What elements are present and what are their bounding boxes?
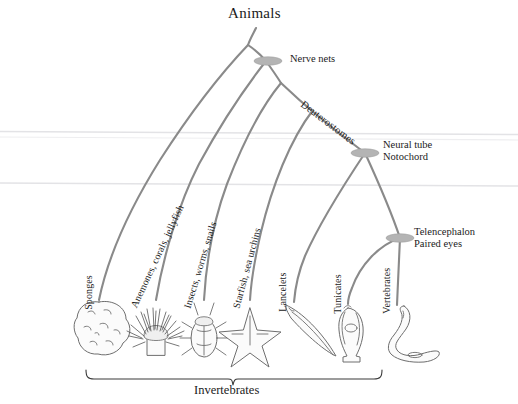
node-marker-nerve-nets	[254, 57, 282, 65]
background-rule-top-soft	[0, 137, 518, 140]
branch-sponges	[99, 45, 248, 300]
node-marker-neural-tube	[351, 149, 379, 157]
node-label-notochord: Notochord	[383, 151, 428, 163]
organism-sea-anemone	[127, 308, 184, 355]
organism-starfish	[219, 308, 281, 367]
node-marker-telencephalon	[386, 234, 414, 242]
organism-lancelet	[286, 305, 336, 356]
organism-tunicate	[339, 306, 363, 362]
taxon-label-sponges: Sponges	[83, 275, 95, 310]
organism-fish	[388, 306, 439, 362]
taxon-label-tunicates: Tunicates	[332, 274, 344, 313]
organism-beetle	[180, 303, 228, 357]
node-label-telencephalon: Telencephalon	[414, 226, 475, 238]
taxon-label-vertebrates: Vertebrates	[381, 268, 393, 314]
background-rule-top	[0, 132, 518, 135]
taxon-label-lancelets: Lancelets	[277, 273, 289, 312]
background-rules	[0, 132, 518, 187]
node-label-neural-tube: Neural tube	[383, 139, 432, 151]
bracket-label-invertebrates: Invertebrates	[194, 383, 259, 398]
branch-vertebrates	[397, 238, 400, 305]
background-rule-bottom	[0, 183, 518, 186]
figure-canvas: Animals Nerve nets Deuterostomes Neural …	[0, 0, 518, 404]
root-label-animals: Animals	[228, 5, 281, 23]
branch-olfactores-stem	[365, 153, 400, 238]
branch-root-stem	[248, 28, 256, 45]
node-label-paired-eyes: Paired eyes	[414, 238, 462, 250]
phylogenetic-tree-graphic	[0, 0, 518, 404]
node-label-nerve-nets: Nerve nets	[290, 53, 335, 65]
